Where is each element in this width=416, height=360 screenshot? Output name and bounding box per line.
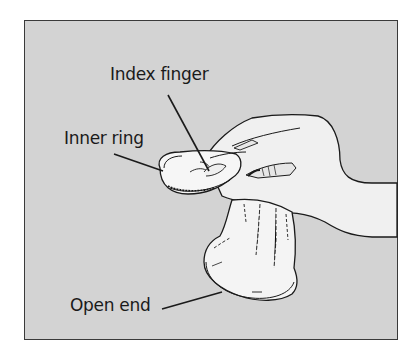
pouch-icon <box>204 199 297 300</box>
label-inner-ring: Inner ring <box>64 130 144 147</box>
open-end-leader-line <box>162 292 222 309</box>
label-open-end: Open end <box>70 297 150 314</box>
illustration <box>0 0 416 360</box>
label-index-finger: Index finger <box>110 66 208 83</box>
inner-ring-leader-line <box>114 154 163 171</box>
figure-canvas: Index finger Inner ring Open end <box>0 0 416 360</box>
